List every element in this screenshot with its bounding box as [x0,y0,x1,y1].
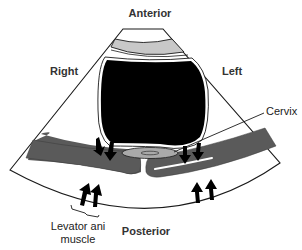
label-posterior: Posterior [122,226,170,237]
label-levator-ani-line1: Levator ani [51,221,105,232]
label-anterior: Anterior [129,8,172,19]
label-levator-ani-line2: muscle [61,234,96,245]
cervix [122,148,178,159]
pelvic-ultrasound-diagram [0,0,302,250]
bladder [101,60,206,145]
label-right: Right [50,66,78,77]
label-left: Left [222,66,242,77]
label-cervix: Cervix [266,106,297,117]
